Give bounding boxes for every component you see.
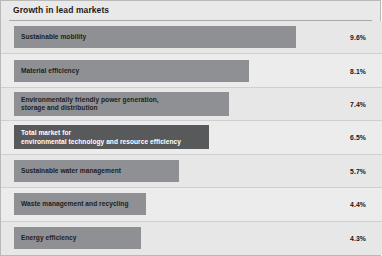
bar-wrapper: Sustainable water management: [14, 160, 179, 182]
bar-value-label: 5.7%: [350, 167, 366, 174]
bar-wrapper: Sustainable mobility: [14, 26, 296, 48]
bar-value-label: 4.3%: [350, 235, 366, 242]
bar-row: Sustainable mobility9.6%: [1, 21, 382, 54]
bar-label: Total market forenvironmental technology…: [21, 129, 181, 146]
bar-wrapper: Waste management and recycling: [14, 193, 146, 215]
bar-label: Sustainable mobility: [21, 33, 86, 41]
bar-label: Energy efficiency: [21, 234, 76, 242]
bar-label: Environmentally friendly power generatio…: [21, 96, 159, 113]
bar-value-label: 9.6%: [350, 34, 366, 41]
bar-row: Sustainable water management5.7%: [1, 155, 382, 188]
chart-title-bar: Growth in lead markets: [1, 1, 380, 21]
bar-wrapper: Total market forenvironmental technology…: [14, 125, 209, 149]
bar: Sustainable water management: [14, 160, 179, 182]
bar: Sustainable mobility: [14, 26, 296, 48]
bar-row: Energy efficiency4.3%: [1, 222, 382, 255]
bar-row: Material efficiency8.1%: [1, 54, 382, 87]
bar-value-label: 7.4%: [350, 101, 366, 108]
bar: Waste management and recycling: [14, 193, 146, 215]
chart-title: Growth in lead markets: [13, 5, 380, 16]
bar-row: Waste management and recycling4.4%: [1, 188, 382, 221]
bar-wrapper: Environmentally friendly power generatio…: [14, 92, 229, 116]
bar-label: Material efficiency: [21, 66, 79, 74]
bar-wrapper: Material efficiency: [14, 60, 249, 82]
bar-row: Environmentally friendly power generatio…: [1, 88, 382, 121]
bar-label: Waste management and recycling: [21, 200, 129, 208]
bar-value-label: 6.5%: [350, 134, 366, 141]
bar-label: Sustainable water management: [21, 167, 121, 175]
bar-row: Total market forenvironmental technology…: [1, 121, 382, 154]
bar-rows: Sustainable mobility9.6%Material efficie…: [1, 21, 380, 255]
bar: Material efficiency: [14, 60, 249, 82]
bar: Energy efficiency: [14, 227, 141, 249]
bar-value-label: 4.4%: [350, 201, 366, 208]
bar: Environmentally friendly power generatio…: [14, 92, 229, 116]
bar: Total market forenvironmental technology…: [14, 125, 209, 149]
bar-wrapper: Energy efficiency: [14, 227, 141, 249]
bar-value-label: 8.1%: [350, 67, 366, 74]
